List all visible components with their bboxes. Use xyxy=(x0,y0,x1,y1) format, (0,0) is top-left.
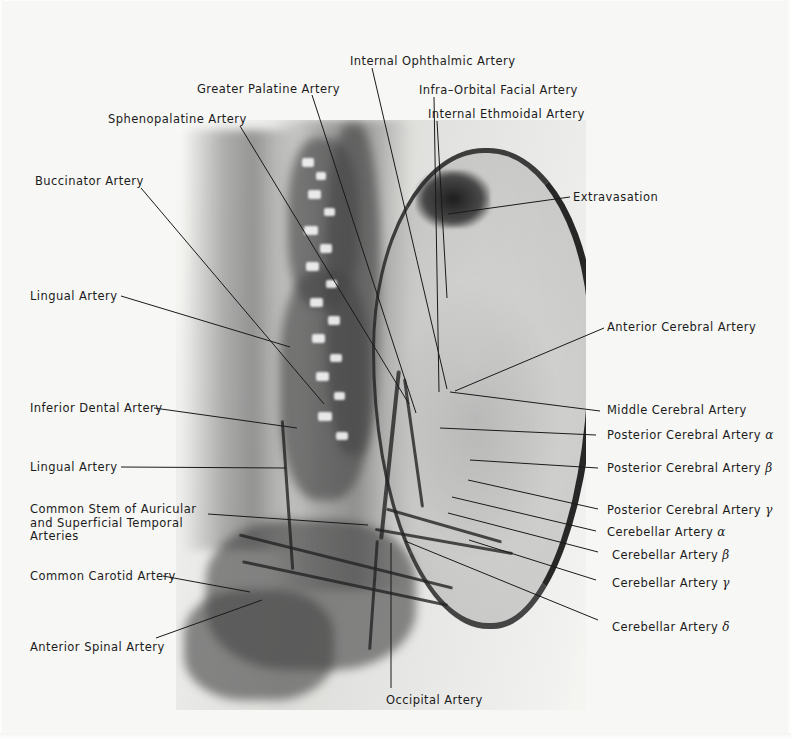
label-cerebellar-artery-gamma: Cerebellar Artery γ xyxy=(612,577,730,591)
angiogram-radiograph xyxy=(176,120,586,710)
paper-edge-top xyxy=(0,0,791,3)
label-text: Occipital Artery xyxy=(386,693,483,707)
label-text: Cerebellar Artery xyxy=(612,576,722,590)
bright-speckle xyxy=(310,298,323,307)
label-cerebellar-artery-alpha: Cerebellar Artery α xyxy=(607,526,726,540)
label-text: Anterior Cerebral Artery xyxy=(607,320,756,334)
label-text: Posterior Cerebral Artery xyxy=(607,428,765,442)
label-greek-suffix: γ xyxy=(722,576,730,590)
label-text: Lingual Artery xyxy=(30,289,117,303)
bright-speckle xyxy=(316,372,329,381)
label-common-stem-auricular-superficial-temporal: Common Stem of Auricular and Superficial… xyxy=(30,503,205,544)
label-posterior-cerebral-artery-beta: Posterior Cerebral Artery β xyxy=(607,462,773,476)
label-middle-cerebral-artery: Middle Cerebral Artery xyxy=(607,404,747,418)
label-text: Posterior Cerebral Artery xyxy=(607,503,765,517)
label-text: Common Carotid Artery xyxy=(30,569,176,583)
bright-speckle xyxy=(320,244,332,253)
label-text: Middle Cerebral Artery xyxy=(607,403,747,417)
label-greek-suffix: β xyxy=(765,461,772,475)
label-inferior-dental-artery: Inferior Dental Artery xyxy=(30,402,162,416)
label-extravasation: Extravasation xyxy=(573,191,658,205)
paper-edge-left xyxy=(0,0,4,739)
bright-speckle xyxy=(336,432,348,440)
label-common-carotid-artery: Common Carotid Artery xyxy=(30,570,176,584)
label-text: Cerebellar Artery xyxy=(607,525,717,539)
label-greek-suffix: δ xyxy=(722,620,730,634)
label-internal-ophthalmic-artery: Internal Ophthalmic Artery xyxy=(350,55,515,69)
bright-speckle xyxy=(312,334,325,343)
label-posterior-cerebral-artery-gamma: Posterior Cerebral Artery γ xyxy=(607,504,773,518)
label-text: Internal Ethmoidal Artery xyxy=(428,107,585,121)
label-anterior-cerebral-artery: Anterior Cerebral Artery xyxy=(607,321,756,335)
label-anterior-spinal-artery: Anterior Spinal Artery xyxy=(30,641,165,655)
label-greek-suffix: α xyxy=(717,525,726,539)
dark-band-neck xyxy=(184,590,334,700)
label-buccinator-artery: Buccinator Artery xyxy=(35,175,144,189)
label-greek-suffix: β xyxy=(722,548,729,562)
paper-edge-right xyxy=(785,0,791,739)
bright-speckle xyxy=(324,208,335,216)
bright-speckle xyxy=(306,262,319,271)
label-lingual-artery-upper: Lingual Artery xyxy=(30,290,117,304)
bright-speckle xyxy=(326,280,337,288)
bright-speckle xyxy=(330,354,342,362)
label-greek-suffix: α xyxy=(765,428,774,442)
label-sphenopalatine-artery: Sphenopalatine Artery xyxy=(108,113,247,127)
label-text: Sphenopalatine Artery xyxy=(108,112,247,126)
label-text: Anterior Spinal Artery xyxy=(30,640,165,654)
bright-speckle xyxy=(318,412,332,421)
extravasation-blob xyxy=(416,170,490,228)
label-cerebellar-artery-delta: Cerebellar Artery δ xyxy=(612,621,730,635)
label-internal-ethmoidal-artery: Internal Ethmoidal Artery xyxy=(428,108,585,122)
label-text: Posterior Cerebral Artery xyxy=(607,461,765,475)
label-cerebellar-artery-beta: Cerebellar Artery β xyxy=(612,549,730,563)
label-greater-palatine-artery: Greater Palatine Artery xyxy=(197,83,340,97)
label-text: Buccinator Artery xyxy=(35,174,144,188)
paper-edge-bottom xyxy=(0,733,791,739)
bright-speckle xyxy=(304,226,318,235)
label-text: Greater Palatine Artery xyxy=(197,82,340,96)
label-text: Lingual Artery xyxy=(30,460,117,474)
bright-speckle xyxy=(308,190,321,199)
bright-speckle xyxy=(328,316,340,325)
label-text: Extravasation xyxy=(573,190,658,204)
bright-speckle xyxy=(334,392,345,400)
bright-speckle xyxy=(302,158,314,167)
label-text: Common Stem of Auricular and Superficial… xyxy=(30,502,196,543)
label-text: Cerebellar Artery xyxy=(612,620,722,634)
label-text: Infra–Orbital Facial Artery xyxy=(419,83,578,97)
label-text: Inferior Dental Artery xyxy=(30,401,162,415)
label-infra-orbital-facial-artery: Infra–Orbital Facial Artery xyxy=(419,84,578,98)
label-text: Internal Ophthalmic Artery xyxy=(350,54,515,68)
bright-speckle xyxy=(316,172,326,180)
label-lingual-artery-lower: Lingual Artery xyxy=(30,461,117,475)
label-greek-suffix: γ xyxy=(765,503,773,517)
label-text: Cerebellar Artery xyxy=(612,548,722,562)
dark-band-posterior xyxy=(326,125,380,455)
figure-page: Internal Ophthalmic ArteryGreater Palati… xyxy=(0,0,791,739)
label-posterior-cerebral-artery-alpha: Posterior Cerebral Artery α xyxy=(607,429,774,443)
label-occipital-artery: Occipital Artery xyxy=(386,694,483,708)
